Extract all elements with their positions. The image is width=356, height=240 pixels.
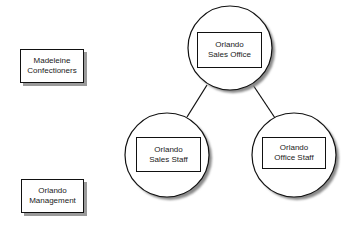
entity-madeleine-confectioners: Madeleine Confectioners xyxy=(20,49,84,83)
entity-orlando-management-line1: Orlando xyxy=(38,186,66,196)
entity-orlando-management-line2: Management xyxy=(29,196,76,206)
entity-madeleine-line2: Confectioners xyxy=(27,66,76,76)
edge-sales-office-to-office-staff xyxy=(253,85,275,118)
node-office-staff-line1: Orlando xyxy=(280,143,308,153)
entity-madeleine-line1: Madeleine xyxy=(34,56,71,66)
node-office-staff-line2: Office Staff xyxy=(274,153,313,163)
node-sales-office-line1: Orlando xyxy=(215,40,243,50)
edge-sales-office-to-sales-staff xyxy=(187,85,207,117)
node-sales-staff-line2: Sales Staff xyxy=(149,155,188,165)
node-sales-office: Orlando Sales Office xyxy=(197,32,262,68)
node-sales-staff-line1: Orlando xyxy=(154,145,182,155)
node-sales-staff: Orlando Sales Staff xyxy=(136,137,201,172)
node-office-staff: Orlando Office Staff xyxy=(262,137,326,169)
node-sales-office-line2: Sales Office xyxy=(208,50,251,60)
entity-orlando-management: Orlando Management xyxy=(21,179,84,213)
